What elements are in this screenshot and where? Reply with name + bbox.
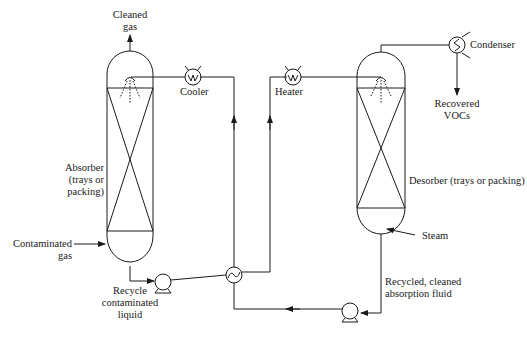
desorber-label: Desorber (trays or packing)	[409, 175, 525, 187]
absorber-column	[107, 51, 153, 262]
heater-label: Heater	[275, 86, 303, 98]
recycle-contaminated-liquid-label: Recycle contaminated liquid	[97, 285, 163, 321]
recycled-cleaned-fluid-label: Recycled, cleaned absorption fluid	[385, 276, 461, 300]
exchanger-to-cooler-pipe	[200, 77, 234, 267]
desorber-outlet-pipe	[361, 234, 381, 313]
cooler-label: Cooler	[180, 86, 209, 98]
absorber-label: Absorber (trays or packing)	[40, 162, 104, 198]
contaminated-gas-label: Contaminated gas	[8, 238, 72, 262]
cleaned-gas-label: Cleaned gas	[110, 9, 150, 33]
label-line: gas	[110, 21, 150, 33]
condenser-label: Condenser	[470, 39, 515, 51]
label-line: contaminated	[97, 297, 163, 309]
label-line: Recycle	[97, 285, 163, 297]
label-line: liquid	[97, 309, 163, 321]
label-line: (trays or	[40, 174, 104, 186]
pump1-to-exchanger-pipe	[171, 275, 226, 280]
pump-2-icon	[342, 303, 358, 322]
cooler-icon	[185, 66, 201, 85]
cross-exchanger-icon	[226, 267, 242, 283]
spray-nozzle-icon	[120, 78, 140, 105]
absorber-outlet-pipe	[130, 266, 154, 281]
label-line: Absorber	[40, 162, 104, 174]
recovered-vocs-label: Recovered VOCs	[428, 98, 486, 122]
lean-return-pipe	[234, 283, 342, 309]
label-line: absorption fluid	[385, 288, 461, 300]
label-line: Recovered	[428, 98, 486, 110]
label-line: Recycled, cleaned	[385, 276, 461, 288]
label-line: Contaminated	[8, 238, 72, 250]
label-line: gas	[8, 250, 72, 262]
exchanger-to-heater-pipe	[242, 77, 287, 272]
label-line: Cleaned	[110, 9, 150, 21]
condenser-icon	[449, 32, 470, 58]
heater-icon	[285, 66, 301, 85]
label-line: packing)	[40, 186, 104, 198]
label-line: VOCs	[428, 110, 486, 122]
steam-label: Steam	[422, 230, 448, 242]
desorber-overhead-pipe	[381, 45, 449, 52]
desorber-column	[357, 52, 405, 234]
spray-nozzle-icon	[371, 78, 391, 105]
